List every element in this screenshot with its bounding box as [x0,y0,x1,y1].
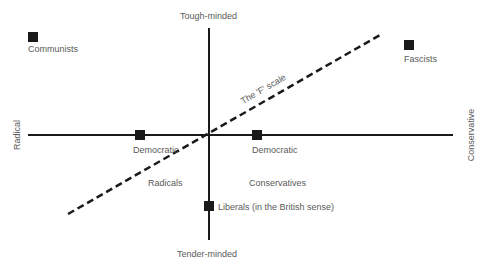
point-label-democratic-right: Democratic [252,145,298,155]
point-label-fascists: Fascists [404,54,437,64]
point-label-communists: Communists [28,44,78,54]
axis-label-left: Radical [12,115,22,155]
region-label-conservatives: Conservatives [249,178,306,188]
f-scale-dashed-line [68,35,380,214]
point-marker-fascists [404,40,414,50]
axis-label-top: Tough-minded [180,11,237,21]
axis-label-bottom: Tender-minded [177,249,237,259]
point-marker-communists [28,32,38,42]
point-label-liberals: Liberals (in the British sense) [218,202,334,212]
point-marker-democratic-right [252,130,262,140]
point-marker-liberals [204,201,214,211]
region-label-radicals: Radicals [148,178,183,188]
point-marker-democratic-left [135,130,145,140]
axis-label-right: Conservative [466,105,476,165]
point-label-democratic-left: Democratic [133,145,179,155]
political-attitudes-diagram: Tough-minded Tender-minded Radical Conse… [0,0,480,270]
